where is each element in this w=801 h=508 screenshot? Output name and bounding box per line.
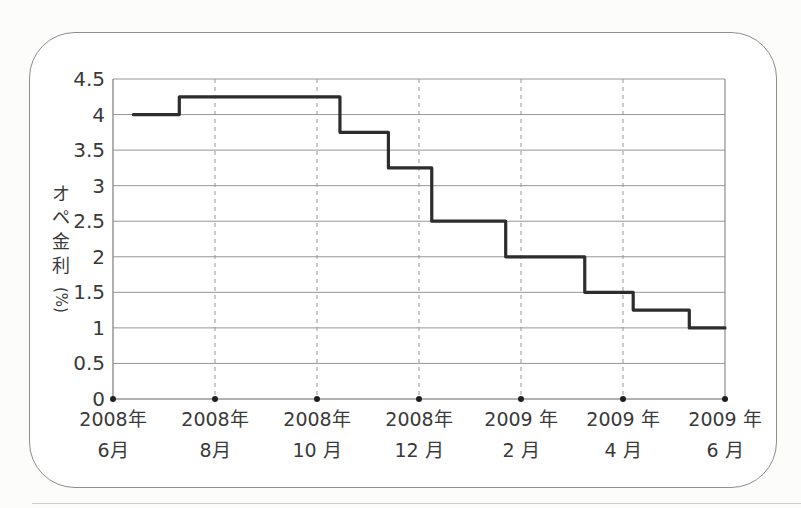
y-axis-title-char: オ (52, 182, 70, 206)
x-tick-label-month: 2 月 (484, 441, 557, 460)
y-tick-label: 4.5 (0, 66, 105, 92)
x-tick-label: 2008年8月 (181, 410, 248, 460)
x-tick-label-month: 12 月 (385, 441, 452, 460)
x-tick-label-year: 2009 年 (484, 410, 557, 429)
x-tick-label-year: 2008年 (79, 410, 146, 429)
x-tick-label-month: 8月 (181, 441, 248, 460)
rate-step-line (133, 97, 725, 328)
x-tick-label: 2009 年6 月 (688, 410, 761, 460)
x-tick-label-year: 2008年 (385, 410, 452, 429)
axis-tick-dot (416, 396, 422, 402)
x-tick-label-year: 2008年 (283, 410, 350, 429)
axis-tick-dot (518, 396, 524, 402)
y-axis-title-char: 金 (52, 230, 70, 254)
x-tick-label: 2009 年2 月 (484, 410, 557, 460)
y-axis-title-char: 利 (52, 254, 70, 278)
x-tick-label-year: 2009 年 (586, 410, 659, 429)
axis-tick-dot (722, 396, 728, 402)
y-axis-title-char: ペ (52, 206, 70, 230)
x-tick-label-month: 10 月 (283, 441, 350, 460)
x-tick-label-year: 2008年 (181, 410, 248, 429)
y-tick-label: 3.5 (0, 137, 105, 163)
y-axis-title-unit: (%) (49, 287, 73, 313)
x-tick-label-month: 6 月 (688, 441, 761, 460)
x-tick-label: 2008年10 月 (283, 410, 350, 460)
axis-tick-dot (110, 396, 116, 402)
axis-tick-dot (620, 396, 626, 402)
x-tick-label: 2008年12 月 (385, 410, 452, 460)
y-axis-title: オペ金利(%) (48, 182, 74, 312)
x-tick-label-year: 2009 年 (688, 410, 761, 429)
x-tick-label-month: 6月 (79, 441, 146, 460)
x-tick-label: 2008年6月 (79, 410, 146, 460)
x-tick-label: 2009 年4 月 (586, 410, 659, 460)
page-edge-artifact (32, 503, 801, 504)
y-tick-label: 0.5 (0, 350, 105, 376)
axis-tick-dot (212, 396, 218, 402)
y-tick-label: 4 (0, 102, 105, 128)
x-tick-label-month: 4 月 (586, 441, 659, 460)
axis-tick-dot (314, 396, 320, 402)
y-tick-label: 1 (0, 315, 105, 341)
